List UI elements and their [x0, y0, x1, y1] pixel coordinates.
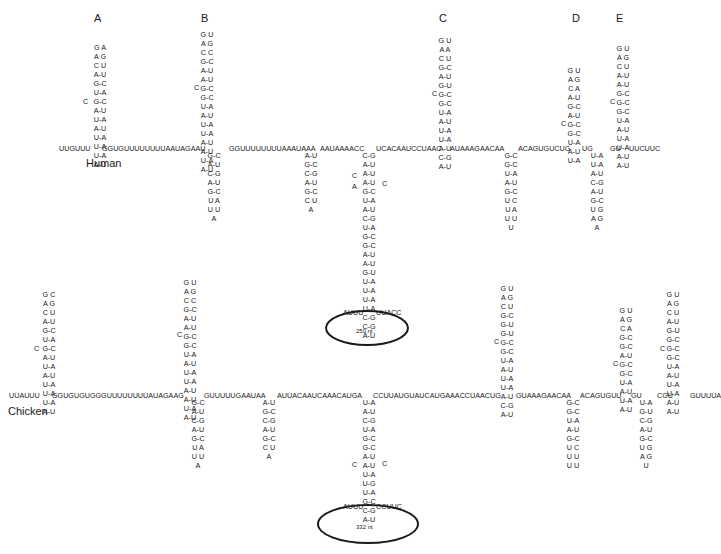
hairpin-e-human: G U A G C U A-U A-U G-C G-C G-C U-A A-U … — [611, 44, 635, 170]
hairpin-down-chicken-4: U-A G-U C-G A-U G-C U G A G U — [634, 398, 658, 470]
bulge-nucleotide: C — [561, 120, 566, 127]
rna-structure-figure: A B C D E Human UUGUUU GGUGUUUUUUUUAAUAG… — [0, 0, 721, 554]
hairpin-a-chicken: G C A G C U A-U G-C U-A G-C A-U U-A A-U … — [37, 290, 61, 416]
backbone-segment: CCUUAUGUAUCAUGAAACCUAACUG — [373, 392, 501, 399]
loop-size-chicken: 332 nt — [356, 524, 373, 530]
backbone-segment: GUUUUA — [690, 392, 721, 399]
bulge-nucleotide: C — [610, 98, 615, 105]
hairpin-down-chicken-3: G-C G-C U-A A-U G-C U C U U U U — [561, 398, 585, 470]
hairpin-d-human: G U A G C A A-U G-C A-U G-C G-C U-A A-U … — [562, 66, 586, 165]
bulge-nucleotide: C — [613, 360, 618, 367]
loop-size-human: 250 nt — [356, 328, 373, 334]
hairpin-down-human-2: A-U G-C C-G A-U G-C C U A — [299, 151, 323, 214]
bulge-nucleotide: A — [352, 183, 357, 190]
bulge-nucleotide: C — [194, 84, 199, 91]
bulge-nucleotide: C — [432, 90, 437, 97]
bulge-nucleotide: C — [494, 338, 499, 345]
bulge-nucleotide: C — [83, 98, 88, 105]
backbone-segment: AUAAAGAACAA — [450, 145, 504, 152]
stem-label-c: C — [439, 12, 447, 24]
hairpin-down-human-3: G-C G-C U-A A-U G-C U C U A U U U — [499, 151, 523, 232]
bulge-nucleotide: C — [34, 345, 39, 352]
stem-label-b: B — [201, 12, 208, 24]
stem-label-e: E — [616, 12, 623, 24]
bulge-nucleotide: C — [660, 345, 665, 352]
hairpin-a-human: G A A G C U A-U G-C U-A G-C A-U U-A A-U … — [88, 43, 112, 169]
hairpin-e-chicken: G U A G C U A-U G-U G-C G-C G-C U-A A-U … — [661, 290, 685, 416]
hairpin-down-human-1: G-C A-U C-G A-U G-C U A U U A — [202, 151, 226, 223]
stem-label-d: D — [572, 12, 580, 24]
hairpin-down-human-4: U-A U-A A-U C-G A-U G-C U G A G A — [585, 151, 609, 232]
backbone-segment: AUUACAAUCAAACAUGA — [277, 392, 362, 399]
bulge-nucleotide: C — [177, 331, 182, 338]
hairpin-down-chicken-1: G-C A-U C-G A-U G-C U A U U A — [186, 398, 210, 470]
hairpin-c-human: G U A A C U G-C A-U G-U G-C G-C U-A A-U … — [433, 36, 457, 171]
backbone-segment: UUAUUU — [9, 392, 40, 399]
backbone-segment: UUGUUU — [59, 145, 91, 152]
bulge-nucleotide: C — [382, 180, 387, 187]
bulge-nucleotide: C — [352, 461, 357, 468]
bulge-nucleotide: C — [382, 460, 387, 467]
hairpin-c-chicken: G U A G C U G-C G-U G-U G-C G-C U-A A-U … — [495, 284, 519, 419]
backbone-segment: GGUGUUUUUUUUAAUAGAAU — [102, 145, 205, 152]
backbone-segment: GGUGUGUGGGUUUUUUUUAUAGAAG — [52, 392, 184, 399]
bulge-nucleotide: C — [352, 172, 357, 179]
backbone-segment: UCACAAUCCUAAC — [376, 145, 442, 152]
stem-label-a: A — [94, 12, 101, 24]
hairpin-down-chicken-2: A-U G-C C-G A-U G-C C U A — [257, 398, 281, 461]
